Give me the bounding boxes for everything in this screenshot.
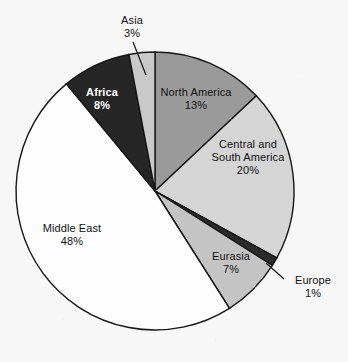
slice-label-africa-name: Africa [70, 86, 134, 99]
slice-label-middle-east-name: Middle East [24, 222, 120, 235]
slice-label-eurasia-name: Eurasia [198, 250, 264, 263]
slice-label-central-south-america-name-line2: South America [196, 151, 300, 164]
slice-label-central-south-america: Central and South America 20% [196, 138, 300, 177]
slice-label-africa-value: 8% [70, 99, 134, 112]
slice-label-europe-value: 1% [282, 287, 344, 300]
slice-label-asia: Asia 3% [100, 14, 164, 40]
pie-chart: Asia 3% North America 13% Central and So… [0, 0, 348, 362]
slice-label-central-south-america-value: 20% [196, 164, 300, 177]
slice-label-north-america: North America 13% [148, 86, 244, 112]
slice-label-europe-name: Europe [282, 274, 344, 287]
slice-label-central-south-america-name-line1: Central and [196, 138, 300, 151]
slice-label-europe: Europe 1% [282, 274, 344, 300]
slice-label-asia-name: Asia [100, 14, 164, 27]
slice-label-middle-east: Middle East 48% [24, 222, 120, 248]
slice-label-north-america-name: North America [148, 86, 244, 99]
slice-label-middle-east-value: 48% [24, 235, 120, 248]
slice-label-eurasia: Eurasia 7% [198, 250, 264, 276]
slice-label-africa: Africa 8% [70, 86, 134, 112]
slice-label-eurasia-value: 7% [198, 263, 264, 276]
pie-chart-canvas [0, 0, 348, 362]
slice-label-north-america-value: 13% [148, 99, 244, 112]
slice-label-asia-value: 3% [100, 27, 164, 40]
